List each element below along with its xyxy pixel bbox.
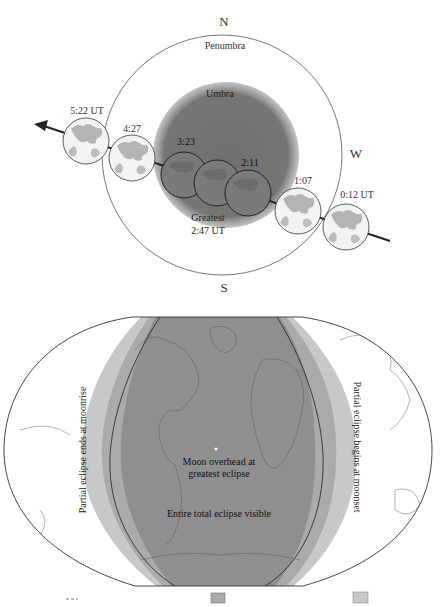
time-label-1-07: 1:07	[294, 175, 312, 186]
visibility-map: Moon overhead at greatest eclipse Entire…	[0, 310, 441, 600]
time-label-3-23: 3:23	[177, 136, 195, 147]
time-label-4-27: 4:27	[123, 123, 141, 134]
left-band-label: Partial eclipse ends at moonrise	[77, 386, 88, 513]
moon-2-11	[225, 170, 271, 216]
compass-north: N	[219, 14, 229, 29]
moon-overhead-label-1: Moon overhead at	[183, 456, 256, 467]
eclipse-diagram: N S W Penumbra Umbra 5:22 UT 4:27 3:23 2…	[34, 14, 390, 295]
moon-5-22	[63, 118, 109, 164]
time-label-greatest-time: 2:47 UT	[191, 225, 225, 236]
compass-west: W	[350, 146, 363, 161]
legend-light-swatch	[353, 592, 368, 603]
right-band-label: Partial eclipse begins at moonset	[352, 381, 363, 512]
umbra-label: Umbra	[206, 88, 234, 99]
penumbra-label: Penumbra	[205, 40, 246, 51]
compass-south: S	[220, 280, 227, 295]
time-label-greatest: Greatest	[191, 212, 225, 223]
moon-overhead-label-2: greatest eclipse	[188, 468, 250, 479]
legend	[66, 592, 368, 603]
time-label-5-22: 5:22 UT	[70, 105, 104, 116]
time-label-2-11: 2:11	[241, 157, 258, 168]
moon-overhead-marker	[214, 447, 217, 450]
moon-0-12	[323, 204, 369, 250]
time-label-0-12: 0:12 UT	[340, 189, 374, 200]
moon-1-07	[275, 188, 321, 234]
arrow-head-icon	[34, 120, 48, 131]
moon-4-27	[109, 135, 155, 181]
entire-total-eclipse-label: Entire total eclipse visible	[167, 508, 272, 519]
legend-medium-swatch	[211, 593, 225, 603]
